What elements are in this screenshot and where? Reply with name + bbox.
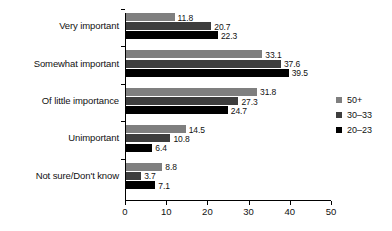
legend-label: 20–23 bbox=[347, 125, 372, 135]
bar bbox=[126, 50, 262, 58]
bar bbox=[126, 144, 152, 152]
bar-value-label: 39.5 bbox=[292, 69, 308, 78]
legend-item: 50+ bbox=[336, 92, 392, 107]
bar-value-label: 31.8 bbox=[260, 88, 276, 97]
category-label: Very important bbox=[0, 20, 119, 31]
x-axis-tick-label: 10 bbox=[154, 206, 178, 217]
x-axis-tick-label: 20 bbox=[195, 206, 219, 217]
x-axis-tick bbox=[331, 201, 332, 205]
legend-label: 30–33 bbox=[347, 110, 372, 120]
category-label: Not sure/Don't know bbox=[0, 170, 119, 181]
bar-value-label: 3.7 bbox=[144, 172, 156, 181]
legend-swatch-icon bbox=[336, 97, 342, 103]
x-axis-tick-label: 40 bbox=[278, 206, 302, 217]
bar-value-label: 14.5 bbox=[189, 126, 205, 135]
bar bbox=[126, 125, 186, 133]
x-axis-tick bbox=[249, 201, 250, 205]
y-axis-tick bbox=[121, 121, 125, 122]
bar bbox=[126, 13, 175, 21]
category-axis-labels: Very importantSomewhat importantOf littl… bbox=[0, 0, 119, 195]
y-axis-tick bbox=[121, 46, 125, 47]
bar bbox=[126, 60, 281, 68]
legend-swatch-icon bbox=[336, 127, 342, 133]
bar bbox=[126, 181, 155, 189]
bar-value-label: 33.1 bbox=[265, 51, 281, 60]
legend-item: 30–33 bbox=[336, 107, 392, 122]
legend-item: 20–23 bbox=[336, 122, 392, 137]
category-label: Of little importance bbox=[0, 95, 119, 106]
bar-value-label: 6.4 bbox=[155, 144, 167, 153]
bar-value-label: 24.7 bbox=[231, 107, 247, 116]
x-axis-tick bbox=[125, 201, 126, 205]
x-axis-tick-label: 30 bbox=[237, 206, 261, 217]
bar-value-label: 22.3 bbox=[221, 32, 237, 41]
bar bbox=[126, 88, 257, 96]
bar bbox=[126, 31, 218, 39]
y-axis-tick bbox=[121, 159, 125, 160]
bar bbox=[126, 172, 141, 180]
bar bbox=[126, 106, 228, 114]
y-axis-tick bbox=[121, 9, 125, 10]
x-axis-tick bbox=[207, 201, 208, 205]
bar bbox=[126, 163, 162, 171]
bar bbox=[126, 69, 289, 77]
bar bbox=[126, 134, 170, 142]
x-axis-tick bbox=[166, 201, 167, 205]
category-label: Unimportant bbox=[0, 132, 119, 143]
bar bbox=[126, 97, 238, 105]
category-label: Somewhat important bbox=[0, 58, 119, 69]
y-axis-tick bbox=[121, 84, 125, 85]
x-axis-tick-label: 0 bbox=[113, 206, 137, 217]
bar-value-label: 11.8 bbox=[178, 14, 194, 23]
x-axis-tick bbox=[290, 201, 291, 205]
legend-label: 50+ bbox=[347, 95, 362, 105]
bar-value-label: 8.8 bbox=[165, 163, 177, 172]
bar-chart: Very importantSomewhat importantOf littl… bbox=[0, 0, 392, 231]
x-axis-line bbox=[125, 200, 331, 201]
x-axis-tick-label: 50 bbox=[319, 206, 343, 217]
bar-value-label: 7.1 bbox=[158, 182, 170, 191]
legend-swatch-icon bbox=[336, 112, 342, 118]
bar bbox=[126, 22, 211, 30]
bar-value-label: 10.8 bbox=[173, 135, 189, 144]
plot-area: 11.820.722.333.137.639.531.827.324.714.5… bbox=[125, 13, 331, 200]
legend: 50+30–3320–23 bbox=[336, 92, 392, 137]
